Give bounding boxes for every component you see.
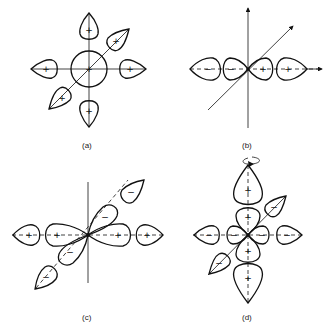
- svg-text:+: +: [112, 36, 120, 46]
- svg-text:+: +: [143, 230, 151, 240]
- svg-text:+: +: [53, 230, 61, 240]
- svg-text:+: +: [259, 64, 267, 74]
- svg-text:+: +: [284, 64, 292, 74]
- svg-text:+: +: [85, 25, 93, 35]
- svg-text:−: −: [270, 202, 278, 212]
- svg-text:−: −: [283, 230, 291, 240]
- svg-text:−: −: [205, 230, 213, 240]
- svg-text:−: −: [66, 247, 74, 257]
- svg-text:−: −: [215, 258, 223, 268]
- orbital-diagram-figure: .ol { fill:none; stroke:#111; stroke-wid…: [0, 0, 331, 329]
- svg-text:+: +: [244, 212, 252, 222]
- svg-text:−: −: [204, 64, 212, 74]
- panel-b-label: (b): [242, 141, 252, 150]
- svg-text:−: −: [127, 187, 135, 197]
- svg-text:−: −: [227, 64, 235, 74]
- svg-text:+: +: [85, 106, 93, 116]
- svg-text:+: +: [126, 64, 134, 74]
- panel-c: + + + + − − − − (c): [12, 180, 165, 322]
- panel-b: − − + + (b): [190, 8, 322, 167]
- panel-a-label: (a): [82, 141, 92, 150]
- svg-text:+: +: [244, 185, 252, 195]
- svg-text:+: +: [244, 273, 252, 283]
- panel-d-label: (d): [242, 313, 252, 322]
- svg-text:−: −: [101, 212, 109, 222]
- lobe-c-h2: [46, 224, 89, 246]
- panel-a: + + + + + + + (a): [31, 13, 146, 150]
- panel-d: + + + + − − − − − − (d): [193, 165, 303, 322]
- lobe-d-v4: [234, 264, 263, 304]
- svg-text:+: +: [25, 230, 33, 240]
- svg-text:−: −: [42, 272, 50, 282]
- svg-text:+: +: [244, 246, 252, 256]
- sign-center: +: [85, 64, 93, 74]
- svg-text:+: +: [42, 64, 50, 74]
- svg-text:+: +: [58, 93, 66, 103]
- svg-text:+: +: [114, 230, 122, 240]
- svg-text:−: −: [230, 230, 238, 240]
- svg-text:−: −: [258, 230, 266, 240]
- panel-c-label: (c): [82, 313, 92, 322]
